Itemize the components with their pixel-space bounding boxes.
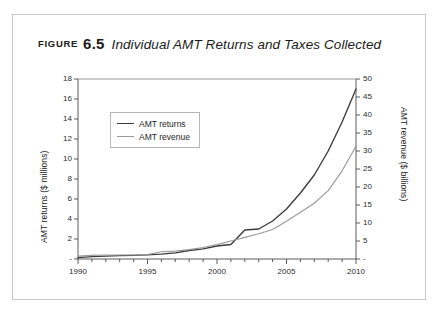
y-tick-left-10: 10 [48,154,72,163]
y-tick-left-8: 8 [48,174,72,183]
y-tick-right-50: 50 [363,74,385,83]
y-tick-left-12: 12 [48,134,72,143]
y-tick-left-14: 14 [48,114,72,123]
chart-legend: AMT returns AMT revenue [110,112,200,148]
legend-label-revenue: AMT revenue [139,132,190,142]
x-tick-2000: 2000 [201,267,233,276]
y-tick-right-5: 5 [363,236,385,245]
legend-item: AMT revenue [117,130,190,143]
y-axis-right-title: AMT revenue ($ billions) [399,107,409,201]
y-tick-right-30: 30 [363,146,385,155]
y-tick-left-2: 2 [48,234,72,243]
chart-plot-area: AMT returns ($ millions) AMT revenue ($ … [13,15,427,301]
x-tick-1990: 1990 [62,267,94,276]
y-tick-left--: - [48,254,72,263]
y-tick-right--: - [363,254,385,263]
legend-item: AMT returns [117,117,190,130]
y-tick-right-40: 40 [363,110,385,119]
y-tick-right-15: 15 [363,200,385,209]
legend-line-swatch-returns [117,123,134,124]
x-tick-1995: 1995 [132,267,164,276]
legend-label-returns: AMT returns [139,119,186,129]
y-tick-right-10: 10 [363,218,385,227]
legend-line-swatch-revenue [117,136,134,137]
y-tick-right-35: 35 [363,128,385,137]
y-tick-left-4: 4 [48,214,72,223]
y-tick-left-16: 16 [48,94,72,103]
figure-frame: Figure6.5Individual AMT Returns and Taxe… [12,14,426,300]
y-tick-right-20: 20 [363,182,385,191]
y-tick-left-6: 6 [48,194,72,203]
y-tick-right-25: 25 [363,164,385,173]
x-tick-2010: 2010 [340,267,372,276]
x-tick-2005: 2005 [271,267,303,276]
y-tick-left-18: 18 [48,74,72,83]
y-tick-right-45: 45 [363,92,385,101]
